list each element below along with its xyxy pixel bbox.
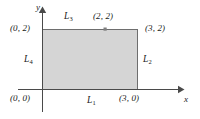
segment-label-L1-subscript: 1 (92, 99, 95, 106)
point-label-2-2: (2, 2) (93, 12, 113, 21)
corner-label-top-right: (3, 2) (145, 24, 165, 33)
segment-label-L4: L4 (24, 55, 33, 65)
x-axis-label: x (184, 95, 188, 104)
segment-label-L1: L1 (87, 96, 96, 106)
x-axis-arrowhead (178, 86, 185, 93)
segment-label-L3-subscript: 3 (69, 15, 72, 22)
corner-label-top-left: (0, 2) (10, 24, 30, 33)
figure-rectangular-region: y x L3 L1 L4 L2 (0, 2) (0, 0) (2, 2) (3,… (0, 0, 200, 119)
segment-label-L4-subscript: 4 (29, 58, 32, 65)
segment-label-L2: L2 (143, 55, 152, 65)
corner-label-bottom-left: (0, 0) (10, 94, 30, 103)
y-axis-label: y (36, 3, 40, 12)
segment-label-L2-subscript: 2 (148, 58, 151, 65)
shaded-rectangle (43, 30, 138, 90)
segment-label-L3: L3 (64, 12, 73, 22)
corner-label-bottom-right: (3, 0) (119, 94, 139, 103)
point-marker-2-2 (104, 28, 107, 31)
